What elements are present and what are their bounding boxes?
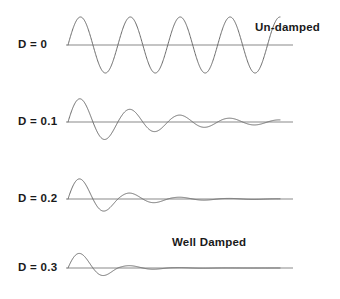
annotation-undamped: Un-damped [255,21,320,33]
row-label-d0: D = 0 [18,38,47,50]
waveform-d-0-1 [68,99,280,140]
row-label-d02: D = 0.2 [18,192,58,204]
waveform-d-0 [68,17,280,73]
row-label-d03: D = 0.3 [18,261,58,273]
damped-oscillation-figure: D = 0 Un-damped D = 0.1 D = 0.2 D = 0.3 … [0,0,340,299]
waveform-d-0-3 [68,253,280,275]
waveform-layer [0,0,340,299]
annotation-well-damped: Well Damped [172,236,246,248]
row-label-d01: D = 0.1 [18,115,58,127]
waveform-d-0-2 [68,179,280,211]
